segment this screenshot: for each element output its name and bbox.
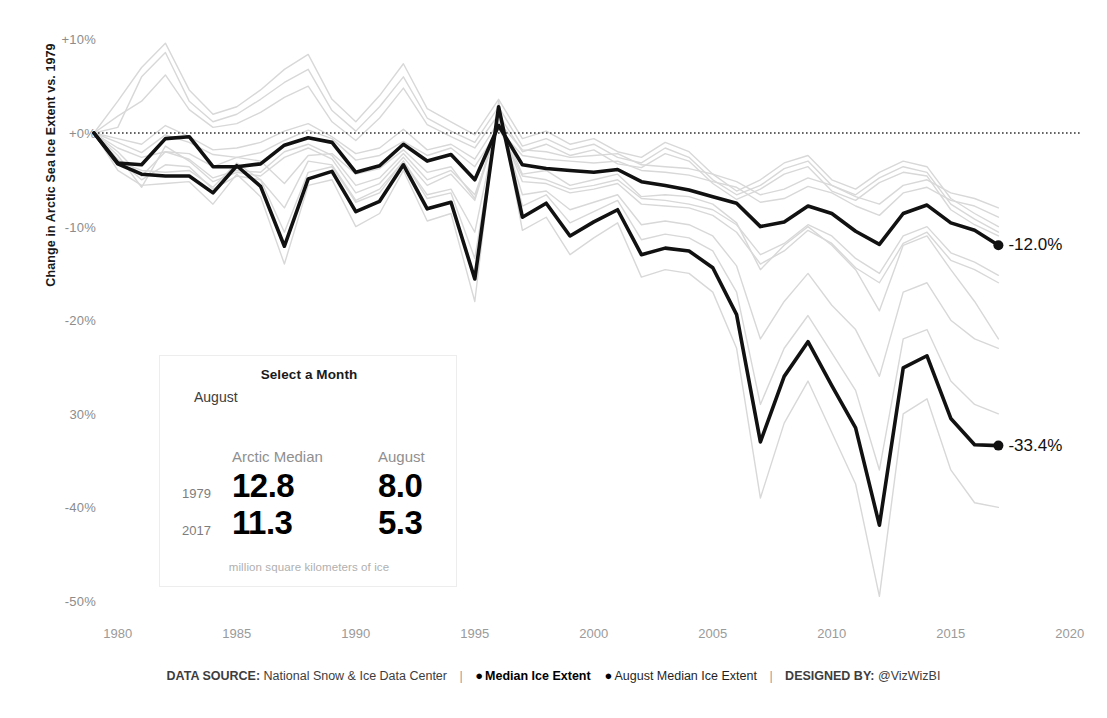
- row-1979-arctic-median: 12.8: [232, 467, 294, 505]
- x-tick-4: 2000: [579, 626, 608, 641]
- month-selector-panel[interactable]: Select a Month August Arctic Median Augu…: [159, 355, 457, 587]
- series-line-faint: [94, 127, 998, 275]
- footer-separator-1: |: [450, 669, 471, 683]
- x-tick-2: 1990: [341, 626, 370, 641]
- series-line-faint: [94, 75, 998, 236]
- x-tick-3: 1995: [460, 626, 489, 641]
- panel-footnote: million square kilometers of ice: [160, 561, 458, 573]
- x-tick-5: 2005: [698, 626, 727, 641]
- row-1979-month-value: 8.0: [378, 467, 422, 505]
- legend-label-august[interactable]: August Median Ice Extent: [614, 669, 756, 683]
- x-axis-tick-labels: 198019851990199520002005201020152020: [0, 626, 1107, 646]
- series-line-bold: [94, 126, 998, 246]
- end-value-label: -33.4%: [1008, 436, 1062, 456]
- x-tick-0: 1980: [103, 626, 132, 641]
- panel-title: Select a Month: [160, 367, 458, 382]
- series-end-dot: [993, 240, 1003, 250]
- series-line-faint: [94, 120, 998, 339]
- selected-month-value[interactable]: August: [194, 389, 238, 405]
- column-header-arctic-median: Arctic Median: [232, 448, 323, 465]
- footer-separator-2: |: [760, 669, 781, 683]
- column-header-month: August: [378, 448, 425, 465]
- series-end-dot: [993, 441, 1003, 451]
- x-tick-6: 2010: [817, 626, 846, 641]
- legend-label-median[interactable]: Median Ice Extent: [485, 669, 591, 683]
- row-2017-arctic-median: 11.3: [232, 504, 292, 542]
- row-year-2017: 2017: [182, 523, 211, 538]
- designed-by-value: @VizWizBI: [878, 669, 940, 683]
- data-source-label: DATA SOURCE:: [167, 669, 261, 683]
- data-source-value: National Snow & Ice Data Center: [264, 669, 447, 683]
- x-tick-8: 2020: [1055, 626, 1084, 641]
- row-2017-month-value: 5.3: [378, 504, 422, 542]
- x-tick-1: 1985: [222, 626, 251, 641]
- footer: DATA SOURCE: National Snow & Ice Data Ce…: [0, 668, 1107, 683]
- legend-marker-august-icon: ●: [605, 668, 615, 683]
- x-tick-7: 2015: [936, 626, 965, 641]
- chart-canvas: +10%+0%-10%-20%30%-40%-50% Change in Arc…: [0, 0, 1107, 718]
- row-year-1979: 1979: [182, 486, 211, 501]
- end-value-label: -12.0%: [1008, 235, 1062, 255]
- designed-by-label: DESIGNED BY:: [785, 669, 874, 683]
- legend-marker-median-icon: ●: [475, 668, 485, 683]
